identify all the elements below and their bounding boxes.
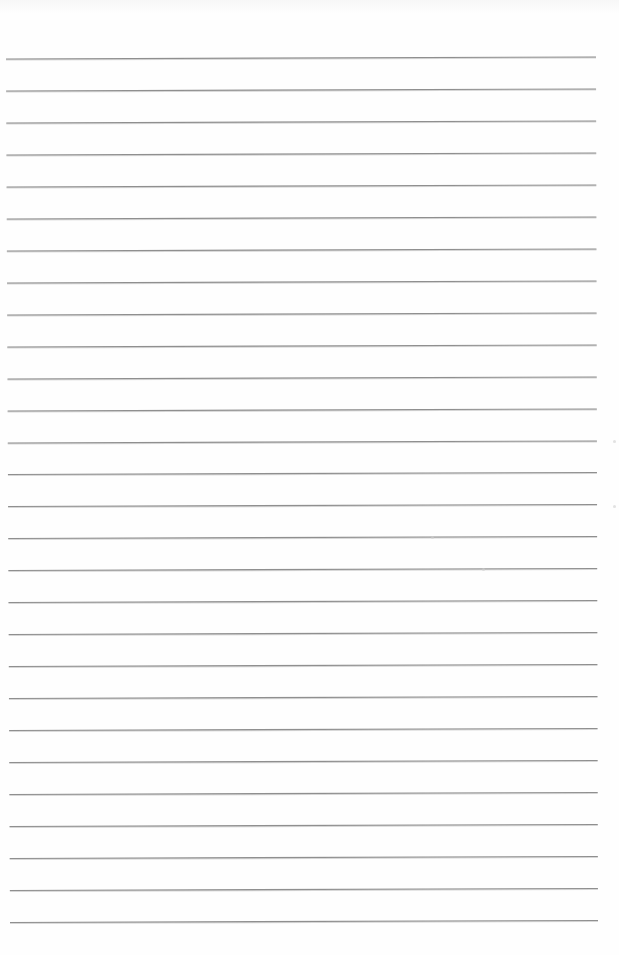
- scan-speck: [431, 536, 434, 539]
- scan-speck: [613, 440, 616, 443]
- lined-paper-page: [0, 0, 619, 955]
- scan-speck: [482, 568, 485, 571]
- ruled-lines: [0, 0, 619, 955]
- scan-speck: [613, 505, 616, 508]
